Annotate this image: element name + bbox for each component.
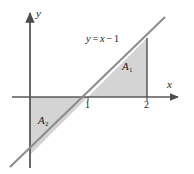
region-a2-letter: A xyxy=(38,114,45,126)
curve-label-minus: − xyxy=(106,33,112,44)
tick-label-1: 1 xyxy=(85,100,90,110)
x-axis-label: x xyxy=(167,79,172,90)
curve-label-equals: = xyxy=(92,33,98,44)
graph-canvas xyxy=(0,0,194,174)
region-a1-subscript: 1 xyxy=(129,66,133,74)
curve-label-one: 1 xyxy=(114,33,119,44)
region-a2-subscript: 2 xyxy=(45,120,49,128)
region-label-a2: A2 xyxy=(38,115,48,128)
curve-equation-label: y=x−1 xyxy=(86,34,119,45)
region-label-a1: A1 xyxy=(122,61,132,74)
curve-label-x: x xyxy=(100,33,105,44)
region-a1-letter: A xyxy=(122,60,129,72)
tick-label-2: 2 xyxy=(144,100,149,110)
curve-label-y: y xyxy=(86,33,91,44)
y-axis-label: y xyxy=(36,8,41,19)
shaded-region-a1 xyxy=(88,38,147,97)
figure-container: y x y=x−1 A1 A2 1 2 xyxy=(0,0,194,174)
